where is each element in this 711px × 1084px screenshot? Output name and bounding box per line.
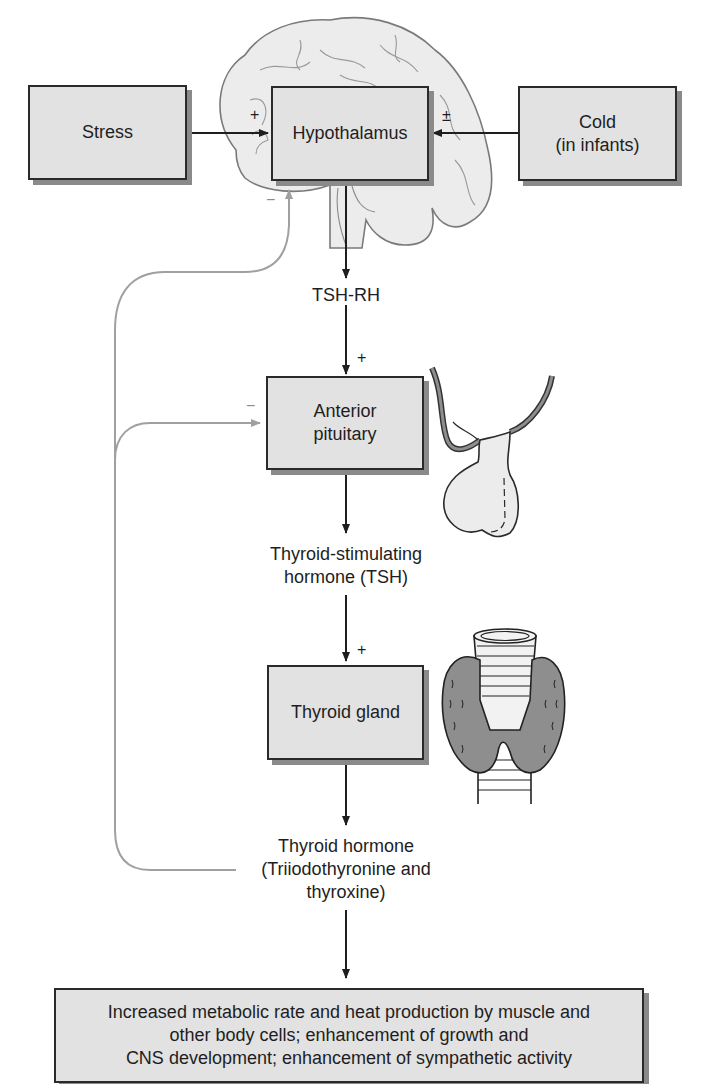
hypothalamus-box: Hypothalamus: [271, 86, 429, 181]
thyroid-gland-label: Thyroid gland: [291, 701, 400, 724]
sign-feedback-hypothalamus-minus: −: [266, 192, 275, 208]
sign-cold-plusminus: ±: [442, 108, 451, 124]
thyroid-illustration: [442, 629, 564, 804]
tsh-rh-label: TSH-RH: [286, 284, 406, 307]
feedback-to-pituitary: [115, 423, 260, 460]
sign-feedback-pituitary-minus: −: [246, 398, 255, 414]
anterior-pituitary-label: Anterior pituitary: [313, 400, 376, 446]
sign-stress-plus: +: [250, 107, 259, 123]
pituitary-illustration: [432, 368, 552, 536]
thyroid-gland-box: Thyroid gland: [267, 665, 424, 760]
effects-box: Increased metabolic rate and heat produc…: [54, 988, 644, 1083]
feedback-arrows: [115, 190, 289, 870]
anterior-pituitary-box: Anterior pituitary: [266, 376, 424, 470]
tsh-label: Thyroid-stimulating hormone (TSH): [236, 543, 456, 589]
cold-label: Cold (in infants): [555, 111, 639, 157]
hypothalamus-label: Hypothalamus: [292, 122, 407, 145]
sign-tshrh-plus: +: [357, 350, 366, 366]
thyroid-hormone-label: Thyroid hormone (Triiodothyronine and th…: [226, 835, 466, 904]
effects-label: Increased metabolic rate and heat produc…: [108, 1001, 590, 1070]
stress-box: Stress: [28, 85, 187, 180]
feedback-to-hypothalamus: [115, 190, 289, 870]
cold-box: Cold (in infants): [518, 86, 677, 181]
stress-label: Stress: [82, 121, 133, 144]
sign-tsh-plus: +: [357, 642, 366, 658]
